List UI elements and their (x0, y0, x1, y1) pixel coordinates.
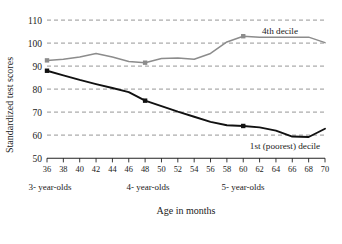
age-group-annotations: 3- year-olds 4- year-olds 5- year-olds (28, 182, 265, 192)
x-tick-60: 60 (239, 165, 247, 174)
x-tick-38: 38 (59, 165, 67, 174)
line-chart: 110 100 90 80 70 60 50 Standardized test… (0, 0, 342, 244)
x-tick-40: 40 (76, 165, 84, 174)
x-tick-64: 64 (272, 165, 281, 174)
x-tick-48: 48 (141, 165, 149, 174)
x-tick-62: 62 (255, 165, 263, 174)
data-point-marker (241, 124, 245, 128)
x-tick-44: 44 (108, 165, 117, 174)
x-tick-56: 56 (206, 165, 214, 174)
x-tick-68: 68 (304, 165, 312, 174)
data-point-marker (143, 98, 147, 102)
x-axis-title: Age in months (157, 205, 216, 216)
y-tick-100: 100 (28, 39, 43, 49)
y-tick-60: 60 (33, 131, 43, 141)
x-tick-36: 36 (43, 165, 51, 174)
y-tick-80: 80 (33, 85, 43, 95)
group-label-5-year-olds: 5- year-olds (221, 182, 265, 192)
group-label-4-year-olds: 4- year-olds (126, 182, 170, 192)
x-tick-46: 46 (125, 165, 133, 174)
data-point-marker (241, 34, 245, 38)
x-tick-66: 66 (288, 165, 296, 174)
y-tick-90: 90 (33, 62, 43, 72)
x-tick-54: 54 (190, 165, 199, 174)
group-label-3-year-olds: 3- year-olds (28, 182, 72, 192)
y-tick-70: 70 (33, 108, 43, 118)
series-label-4th-decile: 4th decile (262, 26, 298, 36)
series-4th-decile (45, 34, 325, 65)
x-tick-42: 42 (92, 165, 100, 174)
series-1st-poorest-decile-markers (45, 69, 246, 129)
series-4th-decile-line (47, 36, 325, 62)
x-tick-52: 52 (174, 165, 182, 174)
data-point-marker (143, 60, 147, 64)
chart-figure: 110 100 90 80 70 60 50 Standardized test… (0, 0, 342, 244)
x-axis-tick-labels: 36 38 40 42 44 46 48 50 52 54 56 58 60 6… (43, 165, 329, 174)
y-axis-title: Standardized test scores (4, 57, 15, 153)
x-tick-58: 58 (223, 165, 231, 174)
x-tick-70: 70 (321, 165, 329, 174)
y-axis-tick-labels: 110 100 90 80 70 60 50 (28, 16, 43, 164)
data-point-marker (45, 69, 49, 73)
series-1st-poorest-decile-line (47, 71, 325, 137)
y-tick-110: 110 (28, 16, 42, 26)
x-tick-50: 50 (157, 165, 165, 174)
series-label-1st-poorest-decile: 1st (poorest) decile (250, 141, 320, 151)
series-1st-poorest-decile (45, 69, 325, 137)
y-tick-50: 50 (33, 154, 43, 164)
x-axis: 36 38 40 42 44 46 48 50 52 54 56 58 60 6… (43, 158, 329, 173)
data-point-marker (45, 58, 49, 62)
x-axis-ticks (47, 158, 325, 162)
